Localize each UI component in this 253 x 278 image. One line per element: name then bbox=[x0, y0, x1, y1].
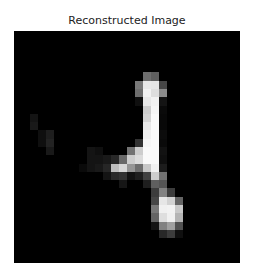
image-pixel bbox=[95, 39, 103, 47]
image-pixel bbox=[38, 31, 46, 39]
image-pixel bbox=[200, 255, 208, 263]
image-pixel bbox=[62, 64, 70, 72]
image-pixel bbox=[175, 172, 183, 180]
image-pixel bbox=[79, 255, 87, 263]
image-pixel bbox=[127, 164, 135, 172]
image-pixel bbox=[232, 164, 240, 172]
image-pixel bbox=[200, 72, 208, 80]
image-pixel bbox=[54, 81, 62, 89]
image-pixel bbox=[183, 230, 191, 238]
image-pixel bbox=[175, 222, 183, 230]
image-pixel bbox=[95, 180, 103, 188]
image-pixel bbox=[167, 39, 175, 47]
image-pixel bbox=[192, 89, 200, 97]
image-pixel bbox=[192, 64, 200, 72]
image-pixel bbox=[95, 139, 103, 147]
image-pixel bbox=[22, 230, 30, 238]
image-pixel bbox=[62, 114, 70, 122]
image-pixel bbox=[224, 39, 232, 47]
image-pixel bbox=[30, 72, 38, 80]
image-pixel bbox=[22, 64, 30, 72]
image-pixel bbox=[183, 255, 191, 263]
image-pixel bbox=[216, 81, 224, 89]
image-pixel bbox=[14, 81, 22, 89]
image-pixel bbox=[22, 180, 30, 188]
image-pixel bbox=[216, 64, 224, 72]
image-pixel bbox=[30, 238, 38, 246]
image-pixel bbox=[143, 230, 151, 238]
image-pixel bbox=[127, 197, 135, 205]
image-pixel bbox=[54, 205, 62, 213]
image-pixel bbox=[46, 122, 54, 130]
image-pixel bbox=[167, 155, 175, 163]
image-pixel bbox=[224, 246, 232, 254]
image-pixel bbox=[167, 139, 175, 147]
image-pixel bbox=[119, 164, 127, 172]
image-pixel bbox=[135, 89, 143, 97]
image-pixel bbox=[62, 97, 70, 105]
image-pixel bbox=[135, 255, 143, 263]
image-pixel bbox=[151, 106, 159, 114]
image-pixel bbox=[232, 48, 240, 56]
image-pixel bbox=[216, 197, 224, 205]
image-pixel bbox=[159, 205, 167, 213]
image-pixel bbox=[87, 197, 95, 205]
image-pixel bbox=[62, 56, 70, 64]
image-pixel bbox=[224, 155, 232, 163]
image-pixel bbox=[200, 222, 208, 230]
image-pixel bbox=[143, 89, 151, 97]
image-pixel bbox=[111, 255, 119, 263]
image-pixel bbox=[175, 246, 183, 254]
image-pixel bbox=[22, 39, 30, 47]
image-pixel bbox=[216, 230, 224, 238]
image-pixel bbox=[30, 172, 38, 180]
image-pixel bbox=[38, 222, 46, 230]
image-pixel bbox=[103, 97, 111, 105]
image-pixel bbox=[119, 64, 127, 72]
image-pixel bbox=[103, 222, 111, 230]
image-pixel bbox=[192, 130, 200, 138]
image-pixel bbox=[159, 139, 167, 147]
image-pixel bbox=[192, 197, 200, 205]
image-pixel bbox=[111, 130, 119, 138]
image-pixel bbox=[151, 230, 159, 238]
image-pixel bbox=[208, 106, 216, 114]
image-pixel bbox=[70, 147, 78, 155]
image-pixel bbox=[30, 205, 38, 213]
image-pixel bbox=[192, 81, 200, 89]
image-pixel bbox=[111, 56, 119, 64]
image-pixel bbox=[167, 48, 175, 56]
image-pixel bbox=[54, 130, 62, 138]
image-pixel bbox=[159, 39, 167, 47]
image-pixel bbox=[87, 246, 95, 254]
image-pixel bbox=[62, 89, 70, 97]
image-pixel bbox=[208, 130, 216, 138]
image-pixel bbox=[183, 147, 191, 155]
image-pixel bbox=[143, 197, 151, 205]
image-pixel bbox=[216, 97, 224, 105]
image-pixel bbox=[192, 180, 200, 188]
image-pixel bbox=[200, 172, 208, 180]
image-pixel bbox=[70, 48, 78, 56]
image-pixel bbox=[135, 56, 143, 64]
image-pixel bbox=[224, 114, 232, 122]
image-pixel bbox=[127, 122, 135, 130]
image-pixel bbox=[38, 48, 46, 56]
image-pixel bbox=[38, 97, 46, 105]
image-pixel bbox=[216, 205, 224, 213]
image-pixel bbox=[70, 72, 78, 80]
image-pixel bbox=[103, 139, 111, 147]
image-pixel bbox=[62, 72, 70, 80]
image-pixel bbox=[79, 122, 87, 130]
image-pixel bbox=[87, 222, 95, 230]
image-pixel bbox=[95, 56, 103, 64]
image-pixel bbox=[54, 197, 62, 205]
image-pixel bbox=[143, 238, 151, 246]
image-pixel bbox=[14, 238, 22, 246]
image-pixel bbox=[79, 64, 87, 72]
image-pixel bbox=[95, 188, 103, 196]
image-pixel bbox=[87, 147, 95, 155]
image-pixel bbox=[79, 147, 87, 155]
image-pixel bbox=[46, 164, 54, 172]
image-pixel bbox=[151, 147, 159, 155]
